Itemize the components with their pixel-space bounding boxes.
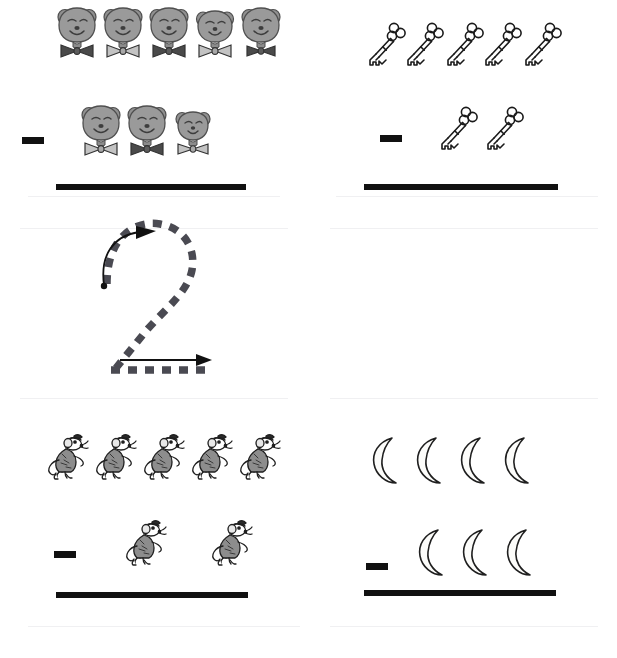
subtrahend-row (8, 516, 350, 572)
mouse-icon (92, 430, 142, 486)
minuend-icons (44, 424, 286, 486)
mouse-icon (122, 516, 172, 572)
minus-operator-icon (366, 563, 388, 570)
worksheet-page: 1 (0, 0, 617, 658)
minuend-icons (362, 424, 540, 492)
bear-icon (192, 4, 238, 60)
bear-icon (54, 4, 100, 60)
subtrahend-row (318, 104, 617, 156)
minuend-icons (366, 4, 564, 72)
curved-arrow-head (136, 226, 156, 239)
moon-icon (362, 434, 408, 492)
mouse-icon (44, 430, 94, 486)
minuend-row (318, 424, 617, 492)
bottom-arrow-head (196, 354, 212, 366)
moon-icon (496, 526, 542, 584)
subtrahend-icons (78, 102, 216, 158)
bear-icon (170, 102, 216, 158)
minus-operator-icon (22, 137, 44, 144)
bear-icon (146, 4, 192, 60)
bear-icon (78, 102, 124, 158)
key-icon (482, 20, 524, 72)
key-icon (484, 104, 526, 156)
separator-line-bottom-left (28, 626, 300, 627)
subtrahend-row (318, 516, 617, 584)
problem-top-right (318, 4, 614, 204)
problem-bottom-left (8, 424, 304, 624)
trace-step-label: 1 (101, 282, 105, 289)
minuend-row (318, 4, 617, 72)
answer-line[interactable] (56, 184, 246, 190)
separator-line-mid-right (330, 228, 598, 229)
answer-line[interactable] (364, 184, 558, 190)
subtrahend-icons (408, 516, 542, 584)
key-icon (366, 20, 408, 72)
subtrahend-row (8, 102, 318, 158)
problem-bottom-right (318, 424, 614, 624)
answer-line[interactable] (364, 590, 556, 596)
answer-line[interactable] (56, 592, 248, 598)
number-trace-guide[interactable] (60, 198, 310, 410)
moon-icon (406, 434, 452, 492)
moon-icon (450, 434, 496, 492)
moon-icon (408, 526, 454, 584)
dashed-numeral-2 (107, 223, 212, 370)
minuend-row (8, 424, 340, 486)
moon-icon (494, 434, 540, 492)
subtrahend-icons (122, 516, 258, 572)
bear-icon (124, 102, 170, 158)
minus-operator-icon (380, 135, 402, 142)
key-icon (444, 20, 486, 72)
problem-top-left (8, 4, 304, 204)
minuend-icons (54, 4, 284, 60)
minus-operator-icon (54, 551, 76, 558)
mouse-icon (208, 516, 258, 572)
subtrahend-icons (438, 104, 526, 156)
bear-icon (238, 4, 284, 60)
mouse-icon (140, 430, 190, 486)
key-icon (438, 104, 480, 156)
bear-icon (100, 4, 146, 60)
mouse-icon (188, 430, 238, 486)
minuend-row (8, 4, 318, 60)
mouse-icon (236, 430, 286, 486)
key-icon (522, 20, 564, 72)
key-icon (404, 20, 446, 72)
moon-icon (452, 526, 498, 584)
separator-line-bottom-right (330, 626, 598, 627)
separator-line-lower-right (330, 398, 598, 399)
